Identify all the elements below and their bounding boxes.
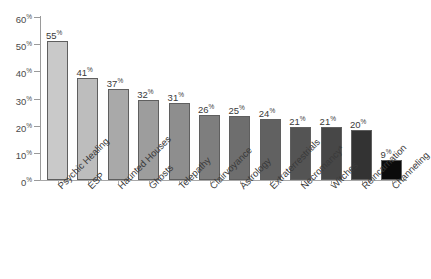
y-axis-tick-label: 50% (0, 39, 32, 51)
y-axis-tick (34, 17, 40, 18)
y-axis-tick-label: 0% (0, 175, 32, 187)
bar (108, 89, 129, 180)
bar-value-label: 37% (107, 76, 123, 89)
bar-value-label: 26% (198, 102, 214, 115)
y-axis-tick-label: 60% (0, 12, 32, 24)
bar-value-label: 32% (137, 87, 153, 100)
bar-value-label: 41% (76, 65, 92, 78)
bar-value-label: 20% (350, 117, 366, 130)
bar-value-label: 25% (228, 103, 244, 116)
y-axis-tick (34, 99, 40, 100)
y-axis-tick-label: 40% (0, 66, 32, 78)
bar-value-label: 21% (320, 114, 336, 127)
bar-value-label: 21% (289, 114, 305, 127)
y-axis-tick (34, 44, 40, 45)
y-axis-tick-label: 30% (0, 94, 32, 106)
bar (47, 41, 68, 180)
bar-value-label: 55% (46, 28, 62, 41)
bar-value-label: 9% (380, 147, 391, 160)
y-axis-tick (34, 71, 40, 72)
y-axis-tick (34, 126, 40, 127)
y-axis-tick (34, 180, 40, 181)
y-axis-tick (34, 153, 40, 154)
bar-value-label: 31% (168, 90, 184, 103)
y-axis-tick-label: 10% (0, 148, 32, 160)
bar-value-label: 24% (259, 106, 275, 119)
y-axis-tick-label: 20% (0, 121, 32, 133)
